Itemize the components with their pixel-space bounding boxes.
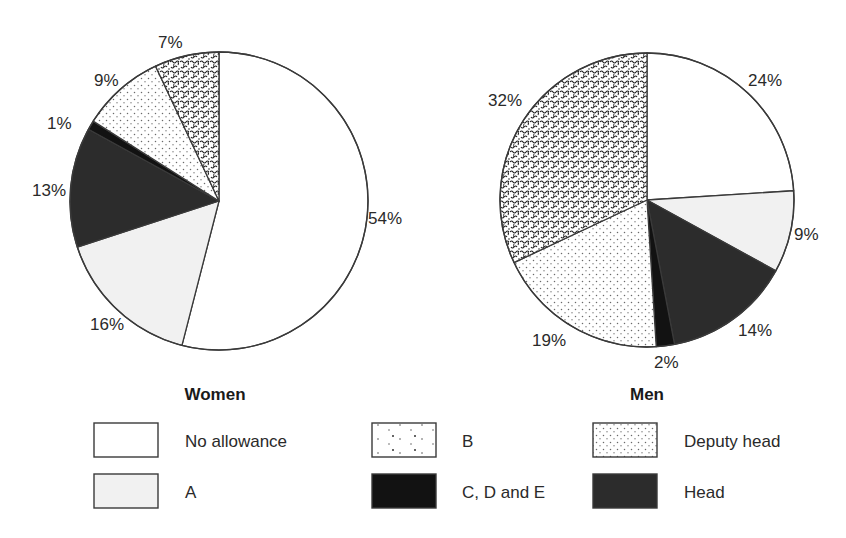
men-chart-title: Men <box>630 385 664 404</box>
women-slice-label-deputy: 9% <box>94 71 119 90</box>
men-slice-label-cde: 2% <box>654 353 679 372</box>
legend-label-none: No allowance <box>185 432 287 451</box>
women-pie-chart: 54%16%13%1%9%7% <box>32 33 402 350</box>
women-slice-label-none: 54% <box>368 209 402 228</box>
women-slice-label-a: 16% <box>90 315 124 334</box>
men-slice-label-head: 14% <box>738 321 772 340</box>
legend-swatch-head <box>593 474 657 508</box>
men-slice-label-deputy: 19% <box>532 331 566 350</box>
legend-label-a: A <box>185 483 197 502</box>
men-slice-label-a: 9% <box>794 225 819 244</box>
legend-label-deputy: Deputy head <box>684 432 780 451</box>
women-slice-label-b: 7% <box>158 33 183 52</box>
men-pie-chart: 24%9%14%2%19%32% <box>488 53 819 372</box>
men-slice-label-none: 24% <box>748 71 782 90</box>
women-chart-title: Women <box>184 385 245 404</box>
women-slice-label-head: 13% <box>32 181 66 200</box>
legend-label-head: Head <box>684 483 725 502</box>
women-slice-label-cde: 1% <box>47 114 72 133</box>
legend-label-cde: C, D and E <box>462 483 545 502</box>
legend: No allowanceABC, D and EDeputy headHead <box>94 423 780 508</box>
legend-swatch-deputy <box>593 423 657 457</box>
legend-swatch-none <box>94 423 158 457</box>
pie-charts-figure: 54%16%13%1%9%7% 24%9%14%2%19%32% Women M… <box>0 0 846 538</box>
legend-label-b: B <box>462 432 473 451</box>
legend-swatch-a <box>94 474 158 508</box>
legend-swatch-cde <box>372 474 436 508</box>
legend-swatch-b <box>372 423 436 457</box>
men-slice-label-b: 32% <box>488 91 522 110</box>
